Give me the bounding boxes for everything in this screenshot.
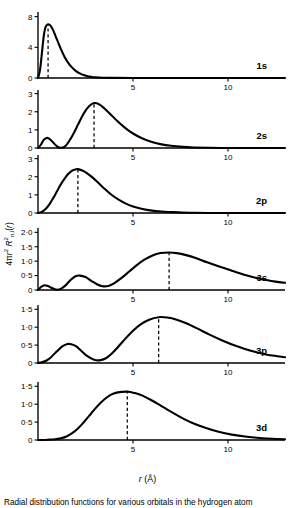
- x-tick-label-2p: 10: [224, 218, 233, 227]
- y-tick-label-3p: 0·5: [21, 341, 33, 350]
- y-tick-label-2p: 2: [28, 173, 33, 182]
- x-tick-label-3p: 5: [131, 368, 136, 377]
- x-axis-label: r (Å): [0, 474, 295, 484]
- y-axis-label: 4πr2 R2n,l(r): [0, 196, 19, 292]
- figure-caption: Radial distribution functions for variou…: [4, 498, 295, 508]
- radial-distribution-figure: 0485101s01235102s01235102p00·51·01·52·05…: [0, 0, 295, 508]
- x-tick-label-3s: 5: [131, 295, 136, 304]
- y-tick-label-3p: 0: [28, 359, 33, 368]
- x-tick-label-3d: 10: [224, 445, 233, 454]
- y-tick-label-3s: 1·0: [21, 257, 33, 266]
- y-tick-label-3d: 1·5: [21, 382, 33, 391]
- panel-3d: 00·51·01·55103d: [21, 382, 285, 454]
- y-tick-label-3s: 0·5: [21, 271, 33, 280]
- x-tick-label-2s: 10: [224, 153, 233, 162]
- y-tick-label-3s: 2·0: [21, 228, 33, 237]
- y-tick-label-1s: 4: [28, 43, 33, 52]
- panel-label-1s: 1s: [256, 60, 267, 71]
- panel-label-3s: 3s: [256, 272, 267, 283]
- y-tick-label-1s: 0: [28, 74, 33, 83]
- x-tick-label-3p: 10: [224, 368, 233, 377]
- y-tick-label-2p: 0: [28, 209, 33, 218]
- x-tick-label-3d: 5: [131, 445, 136, 454]
- y-tick-label-3d: 1·0: [21, 400, 33, 409]
- curve-3s: [38, 253, 285, 290]
- x-tick-label-2p: 5: [131, 218, 136, 227]
- y-tick-label-2s: 2: [28, 108, 33, 117]
- panel-axes-2p: [38, 155, 285, 213]
- y-tick-label-3p: 1·0: [21, 323, 33, 332]
- panel-axes-3p: [38, 305, 285, 363]
- panel-label-3d: 3d: [256, 422, 267, 433]
- y-tick-label-2s: 3: [28, 90, 33, 99]
- y-tick-label-2s: 1: [28, 126, 33, 135]
- panel-axes-2s: [38, 90, 285, 148]
- y-tick-label-2p: 1: [28, 191, 33, 200]
- y-tick-label-1s: 8: [28, 13, 33, 22]
- y-tick-label-2p: 3: [28, 155, 33, 164]
- panel-label-2s: 2s: [256, 130, 267, 141]
- curve-1s: [38, 24, 285, 78]
- panel-2s: 01235102s: [28, 90, 285, 162]
- y-tick-label-3s: 1·5: [21, 243, 33, 252]
- x-tick-label-3s: 10: [224, 295, 233, 304]
- panel-2p: 01235102p: [28, 155, 285, 227]
- x-tick-label-2s: 5: [131, 153, 136, 162]
- y-tick-label-3d: 0·5: [21, 418, 33, 427]
- panel-1s: 0485101s: [28, 12, 285, 92]
- x-axis-unit: (Å): [144, 474, 156, 484]
- curve-3p: [38, 317, 285, 363]
- curve-2p: [38, 169, 285, 213]
- y-tick-label-3d: 0: [28, 436, 33, 445]
- y-tick-label-3p: 1·5: [21, 305, 33, 314]
- x-tick-label-1s: 5: [131, 83, 136, 92]
- plot-canvas: 0485101s01235102s01235102p00·51·01·52·05…: [0, 0, 295, 470]
- panel-axes-1s: [38, 12, 285, 78]
- panel-label-2p: 2p: [256, 195, 267, 206]
- x-tick-label-1s: 10: [224, 83, 233, 92]
- y-tick-label-2s: 0: [28, 144, 33, 153]
- panel-label-3p: 3p: [256, 345, 267, 356]
- y-axis-label-text: 4πr2 R2n,l(r): [3, 222, 16, 266]
- panel-3s: 00·51·01·52·05103s: [21, 228, 285, 304]
- y-tick-label-3s: 0: [28, 286, 33, 295]
- curve-2s: [38, 103, 285, 148]
- panel-3p: 00·51·01·55103p: [21, 305, 285, 377]
- x-axis-symbol: r: [139, 474, 142, 484]
- panel-axes-3s: [38, 228, 285, 290]
- curve-3d: [38, 392, 285, 440]
